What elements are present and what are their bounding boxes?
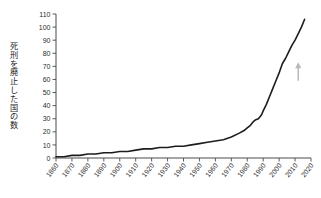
y-axis-label: 死刑を廃止した国の数 [10,41,18,130]
chart-container: 死刑を廃止した国の数 0102030405060708090100110 186… [0,0,321,198]
annotation-layer [295,62,301,81]
y-tick-label: 60 [43,76,51,83]
y-tick-label: 100 [39,24,51,31]
y-tick-label: 90 [43,37,51,44]
x-tick-label: 1990 [252,162,267,179]
x-tick-label: 2000 [268,162,283,179]
x-tick-label: 1930 [156,162,171,179]
x-tick-label: 1920 [140,162,155,179]
line-chart: 死刑を廃止した国の数 0102030405060708090100110 186… [0,0,321,198]
x-axis-ticks: 1860187018801890190019101920193019401950… [45,158,315,178]
y-tick-label: 10 [43,142,51,149]
x-tick-label: 1870 [61,162,76,179]
x-tick-label: 1940 [172,162,187,179]
x-tick-label: 2020 [300,162,315,179]
y-tick-label: 110 [39,11,50,18]
x-tick-label: 1950 [188,162,203,179]
y-axis-ticks: 0102030405060708090100110 [39,11,56,162]
x-tick-label: 1890 [92,162,107,179]
x-tick-label: 1980 [236,162,251,179]
y-tick-label: 80 [43,50,51,57]
y-tick-label: 70 [43,63,51,70]
y-tick-label: 30 [43,115,51,122]
y-tick-label: 0 [47,155,51,162]
x-tick-label: 1860 [45,162,60,179]
x-tick-label: 2010 [284,162,299,179]
data-series [56,19,305,156]
x-tick-label: 1900 [108,162,123,179]
x-tick-label: 1880 [77,162,92,179]
y-tick-label: 40 [43,102,51,109]
x-tick-label: 1960 [204,162,219,179]
x-tick-label: 1910 [124,162,139,179]
y-tick-label: 50 [43,89,51,96]
y-tick-label: 20 [43,128,51,135]
axis-lines [56,14,311,158]
series-line [56,19,305,156]
y-axis-title-char: 数 [10,120,18,130]
up-arrow-icon [295,62,301,81]
x-tick-label: 1970 [220,162,235,179]
